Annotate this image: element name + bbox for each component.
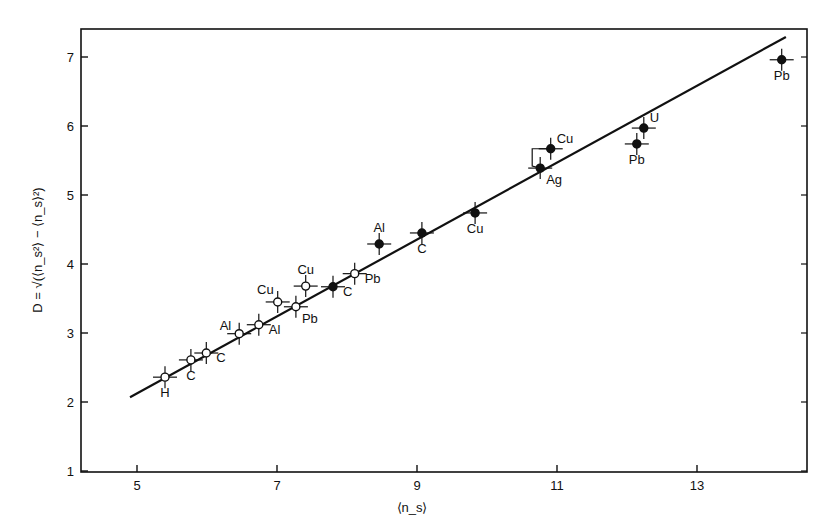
svg-text:3: 3 (67, 326, 74, 341)
point-label: Cu (297, 262, 314, 277)
point-label: Cu (557, 131, 574, 146)
point-label: C (216, 350, 225, 365)
data-point: C (321, 276, 352, 299)
point-label: Ag (546, 172, 562, 187)
x-axis-ticks: 5791113 (133, 465, 704, 493)
data-point: Pb (625, 133, 649, 167)
svg-text:6: 6 (67, 119, 74, 134)
point-label: C (343, 284, 352, 299)
point-label: Cu (257, 282, 274, 297)
data-point: Cu (294, 262, 318, 297)
svg-text:4: 4 (67, 257, 74, 272)
point-label: Pb (774, 68, 790, 83)
plot-frame (81, 29, 807, 472)
svg-text:2: 2 (67, 395, 74, 410)
point-label: Al (269, 322, 281, 337)
data-point: Cu (257, 282, 290, 313)
data-point: Al (367, 220, 391, 255)
point-label: C (417, 241, 426, 256)
point-label: U (650, 110, 659, 125)
data-point: Al (220, 318, 252, 345)
svg-text:13: 13 (690, 478, 704, 493)
point-label: Pb (629, 152, 645, 167)
data-point: C (179, 349, 203, 383)
svg-text:7: 7 (273, 478, 280, 493)
svg-text:1: 1 (67, 464, 74, 479)
x-axis-label: ⟨n_s⟩ (397, 500, 428, 515)
point-label: Al (373, 220, 385, 235)
data-points: HCCAlAlCuPbCuPbCAlCCuAgCuPbUPb (153, 49, 794, 400)
data-point: Pb (343, 263, 381, 286)
fit-line (130, 37, 786, 397)
point-label: Al (220, 318, 232, 333)
svg-text:7: 7 (67, 50, 74, 65)
y-axis-ticks: 1234567 (67, 50, 807, 479)
svg-text:5: 5 (133, 478, 140, 493)
data-point: Cu (463, 202, 487, 236)
svg-text:5: 5 (67, 188, 74, 203)
point-label: Pb (302, 311, 318, 326)
svg-text:9: 9 (413, 478, 420, 493)
data-point: C (194, 342, 225, 365)
data-point: C (410, 222, 434, 256)
point-label: Cu (467, 221, 484, 236)
chart: 5791113 1234567 HCCAlAlCuPbCuPbCAlCCuAgC… (0, 0, 832, 524)
point-label: Pb (365, 271, 381, 286)
point-label: C (186, 368, 195, 383)
svg-text:11: 11 (550, 478, 564, 493)
point-label: H (160, 385, 169, 400)
y-axis-label: D = √(⟨n_s²⟩ − ⟨n_s⟩²) (30, 187, 45, 312)
data-point: Pb (770, 49, 794, 83)
